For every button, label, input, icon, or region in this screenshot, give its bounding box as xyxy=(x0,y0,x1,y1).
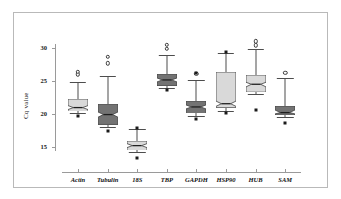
x-tick-label-actin: Actin xyxy=(71,176,85,183)
x-tick-mark xyxy=(167,169,168,172)
outlier-point xyxy=(105,61,109,65)
x-tick-mark xyxy=(137,169,138,172)
whisker-upper xyxy=(137,129,138,141)
x-tick-label-sam: SAM xyxy=(278,176,292,183)
outlier-point xyxy=(165,42,169,46)
extreme-point xyxy=(165,89,168,92)
whisker-upper xyxy=(285,78,286,106)
whisker-upper xyxy=(107,76,108,104)
x-tick-mark xyxy=(285,169,286,172)
outlier-point xyxy=(253,39,257,43)
extreme-point xyxy=(77,115,80,118)
extreme-point xyxy=(195,72,198,75)
x-tick-label-tubulin: Tubulin xyxy=(97,176,118,183)
whisker-upper xyxy=(255,49,256,75)
x-tick-label-tbp: TBP xyxy=(161,176,173,183)
y-tick-label: 30 xyxy=(31,44,47,51)
y-tick-mark xyxy=(52,147,55,148)
whisker-cap-upper xyxy=(247,49,263,50)
box-18s xyxy=(127,141,147,151)
x-axis-line xyxy=(62,172,301,173)
figure-canvas: Cq value 15202530ActinTubulin18STBPGAPDH… xyxy=(0,0,341,199)
whisker-cap-upper xyxy=(188,80,204,81)
whisker-upper xyxy=(78,82,79,99)
box-tbp xyxy=(157,74,177,86)
extreme-point xyxy=(136,156,139,159)
outlier-point xyxy=(165,46,169,50)
whisker-cap-lower xyxy=(247,94,263,95)
box-actin xyxy=(68,99,88,112)
whisker-upper xyxy=(196,80,197,101)
whisker-cap-lower xyxy=(277,117,293,118)
extreme-point xyxy=(284,121,287,124)
outlier-point xyxy=(253,43,257,47)
x-tick-label-18s: 18S xyxy=(132,176,142,183)
x-tick-mark xyxy=(78,169,79,172)
x-tick-mark xyxy=(226,169,227,172)
x-tick-label-gapdh: GAPDH xyxy=(185,176,208,183)
y-tick-mark xyxy=(52,48,55,49)
whisker-upper xyxy=(166,55,167,75)
y-axis-line xyxy=(55,44,56,151)
extreme-point xyxy=(225,112,228,115)
box-sam xyxy=(275,106,295,115)
extreme-point xyxy=(136,126,139,129)
whisker-cap-upper xyxy=(70,82,86,83)
y-tick-label: 20 xyxy=(31,110,47,117)
box-gapdh xyxy=(186,101,206,114)
whisker-upper xyxy=(226,53,227,72)
y-tick-mark xyxy=(52,114,55,115)
x-tick-label-hsp90: HSP90 xyxy=(216,176,235,183)
x-tick-mark xyxy=(256,169,257,172)
box-tubulin xyxy=(98,104,118,124)
x-tick-mark xyxy=(196,169,197,172)
extreme-point xyxy=(195,118,198,121)
y-tick-label: 25 xyxy=(31,77,47,84)
extreme-point xyxy=(106,130,109,133)
whisker-cap-lower xyxy=(129,152,145,153)
y-tick-mark xyxy=(52,81,55,82)
whisker-cap-lower xyxy=(99,127,115,128)
x-tick-label-hub: HUB xyxy=(249,176,263,183)
whisker-cap-upper xyxy=(277,78,293,79)
box-hsp90 xyxy=(216,72,236,108)
extreme-point xyxy=(225,50,228,53)
extreme-point xyxy=(254,109,257,112)
x-tick-mark xyxy=(108,169,109,172)
y-tick-label: 15 xyxy=(31,143,47,150)
outlier-point xyxy=(105,54,109,58)
outlier-point xyxy=(283,71,287,75)
whisker-cap-upper xyxy=(159,55,175,56)
boxplot-chart: 15202530ActinTubulin18STBPGAPDHHSP90HUBS… xyxy=(0,0,341,199)
whisker-cap-upper xyxy=(99,76,115,77)
box-hub xyxy=(246,75,266,92)
